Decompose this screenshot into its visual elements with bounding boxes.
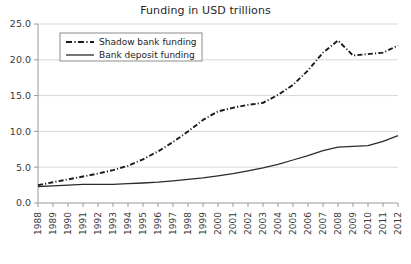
x-tick-label: 2003 bbox=[258, 212, 268, 235]
y-tick-label: 20.0 bbox=[10, 54, 31, 65]
x-tick-label: 1992 bbox=[93, 212, 103, 235]
x-tick-label: 1988 bbox=[33, 212, 43, 235]
x-tick-label: 1997 bbox=[168, 212, 178, 235]
x-tick-label: 2004 bbox=[273, 212, 283, 235]
y-tick-label: 10.0 bbox=[10, 126, 31, 137]
x-tick-label: 2001 bbox=[228, 212, 238, 235]
legend-label: Shadow bank funding bbox=[99, 37, 197, 47]
series-line bbox=[38, 136, 398, 187]
x-tick-label: 1990 bbox=[63, 212, 73, 235]
x-tick-label: 1991 bbox=[78, 212, 88, 235]
x-tick-label: 2007 bbox=[318, 212, 328, 235]
data-series-group bbox=[38, 41, 398, 187]
x-tick-label: 2009 bbox=[348, 212, 358, 235]
y-tick-label: 0.0 bbox=[16, 197, 31, 208]
y-tick-label: 5.0 bbox=[16, 162, 31, 173]
x-tick-label: 2006 bbox=[303, 212, 313, 235]
x-tick-label: 1999 bbox=[198, 212, 208, 235]
x-tick-label: 2005 bbox=[288, 212, 298, 235]
x-tick-label: 1989 bbox=[48, 212, 58, 235]
series-line bbox=[38, 41, 398, 186]
x-axis-ticks: 1988198919901991199219931994199519961997… bbox=[33, 203, 403, 235]
x-tick-label: 2011 bbox=[378, 212, 388, 235]
x-tick-label: 1994 bbox=[123, 212, 133, 235]
y-tick-label: 25.0 bbox=[10, 18, 31, 29]
x-tick-label: 1998 bbox=[183, 212, 193, 235]
y-tick-label: 15.0 bbox=[10, 90, 31, 101]
x-tick-label: 1996 bbox=[153, 212, 163, 235]
chart-container: Funding in USD trillions 0.05.010.015.02… bbox=[0, 0, 411, 264]
x-tick-label: 2002 bbox=[243, 212, 253, 235]
x-tick-label: 1993 bbox=[108, 212, 118, 235]
y-axis-ticks: 0.05.010.015.020.025.0 bbox=[10, 18, 38, 208]
chart-plot-area: 0.05.010.015.020.025.0 19881989199019911… bbox=[0, 0, 411, 264]
x-tick-label: 1995 bbox=[138, 212, 148, 235]
chart-legend: Shadow bank fundingBank deposit funding bbox=[60, 33, 202, 61]
x-tick-label: 2010 bbox=[363, 212, 373, 235]
x-tick-label: 2000 bbox=[213, 212, 223, 235]
legend-label: Bank deposit funding bbox=[99, 50, 195, 60]
x-tick-label: 2008 bbox=[333, 212, 343, 235]
x-tick-label: 2012 bbox=[393, 212, 403, 235]
